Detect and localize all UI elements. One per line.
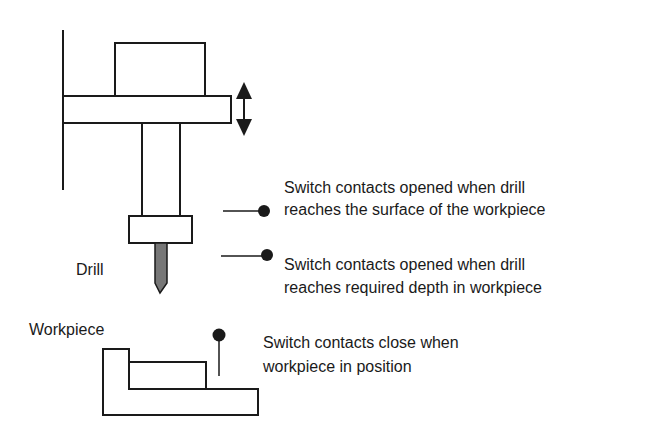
drill-arm <box>63 96 231 123</box>
switch-position <box>213 329 226 377</box>
workpiece <box>129 362 206 389</box>
switch-contact-icon <box>213 329 226 342</box>
switch-surface-line1: Switch contacts opened when drill <box>284 177 525 199</box>
switch-surface <box>223 205 270 217</box>
switch-depth-line1: Switch contacts opened when drill <box>284 254 525 276</box>
switch-depth <box>221 249 273 261</box>
chuck <box>129 216 192 243</box>
workpiece-fixture <box>103 349 258 415</box>
drill-bit <box>155 243 167 293</box>
switch-position-line1: Switch contacts close when <box>263 332 459 354</box>
switch-depth-line2: reaches required depth in workpiece <box>284 277 542 299</box>
switch-contact-icon <box>258 205 270 217</box>
switch-surface-line2: reaches the surface of the workpiece <box>284 199 545 221</box>
drill-label: Drill <box>76 259 104 281</box>
double-headed-arrow-icon <box>236 82 252 136</box>
motor-block <box>115 43 205 96</box>
switch-contact-icon <box>261 249 273 261</box>
switch-position-line2: workpiece in position <box>263 356 412 378</box>
workpiece-label: Workpiece <box>29 319 104 341</box>
